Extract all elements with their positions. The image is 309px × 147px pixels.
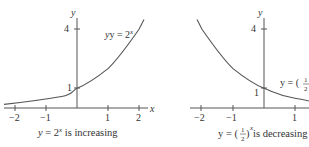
right-x-tick-label-m2: −2 <box>194 112 205 123</box>
right-caption-rest: is decreasing <box>253 128 308 139</box>
exponential-graphs: y x 4 1 −2 −1 1 2 yy = 2x y = 2x is incr… <box>0 0 309 147</box>
right-x-tick-label-m1: −1 <box>226 112 237 123</box>
right-caption: y = ( 1 2 ) x is decreasing <box>218 124 308 143</box>
right-curve-label-prefix: y = ( <box>280 77 300 89</box>
left-x-tick-label-2: 2 <box>136 112 141 123</box>
left-y-axis-label: y <box>70 7 76 18</box>
left-curve-label-exp: x <box>129 28 134 36</box>
left-curve-label-base: y = 2 <box>109 29 130 40</box>
right-caption-num: 1 <box>241 126 245 134</box>
left-y-tick-label-4: 4 <box>64 23 69 34</box>
right-y-tick-label-4: 4 <box>251 23 256 34</box>
right-y-tick-label-1: 1 <box>254 87 259 98</box>
right-caption-den: 2 <box>241 135 245 143</box>
left-x-tick-label-1: 1 <box>105 112 110 123</box>
right-curve-label-den: 2 <box>304 85 308 93</box>
left-caption: y = 2x is increasing <box>37 126 118 138</box>
right-caption-prefix: y = ( <box>218 128 238 140</box>
left-caption-eq: = 2 <box>43 127 59 138</box>
left-x-tick-label-m2: −2 <box>9 112 20 123</box>
right-curve-label: y = ( 1 2 <box>280 76 309 93</box>
right-graph: y 4 1 −2 −1 1 y = ( 1 2 y = ( 1 2 ) x is… <box>190 7 309 143</box>
right-y-axis-label: y <box>257 7 263 18</box>
right-x-tick-label-1: 1 <box>292 112 297 123</box>
left-curve-label: yy = 2x <box>104 28 134 40</box>
left-caption-rest: is increasing <box>62 127 118 138</box>
left-y-tick-label-1: 1 <box>67 82 72 93</box>
right-curve-label-num: 1 <box>304 76 308 84</box>
left-graph: y x 4 1 −2 −1 1 2 yy = 2x y = 2x is incr… <box>4 7 155 138</box>
left-x-tick-label-m1: −1 <box>40 112 51 123</box>
left-x-axis-label: x <box>149 103 155 114</box>
